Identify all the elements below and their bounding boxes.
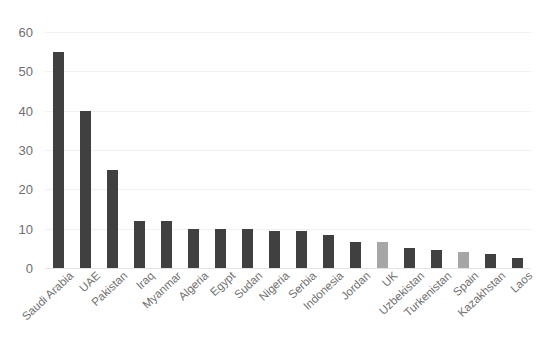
bar[interactable] xyxy=(377,242,388,268)
bar[interactable] xyxy=(188,229,199,268)
bar[interactable] xyxy=(512,258,523,268)
y-axis-tick-label: 50 xyxy=(19,65,33,78)
bar[interactable] xyxy=(431,250,442,268)
y-axis-tick-label: 0 xyxy=(26,262,33,275)
bar[interactable] xyxy=(53,52,64,268)
bar-chart: 0102030405060 Saudi ArabiaUAEPakistanIra… xyxy=(0,0,536,350)
bar[interactable] xyxy=(404,248,415,268)
bar[interactable] xyxy=(215,229,226,268)
gridline-0 xyxy=(45,268,531,269)
bar[interactable] xyxy=(242,229,253,268)
bar[interactable] xyxy=(296,231,307,268)
y-axis-tick-label: 40 xyxy=(19,104,33,117)
y-axis: 0102030405060 xyxy=(0,32,40,268)
y-axis-tick-label: 30 xyxy=(19,144,33,157)
bar[interactable] xyxy=(134,221,145,268)
bar[interactable] xyxy=(269,231,280,268)
y-axis-tick-label: 60 xyxy=(19,26,33,39)
bars-layer xyxy=(45,32,531,268)
y-axis-tick-label: 10 xyxy=(19,222,33,235)
bar[interactable] xyxy=(161,221,172,268)
bar[interactable] xyxy=(107,170,118,268)
bar[interactable] xyxy=(458,252,469,268)
chart-title xyxy=(0,0,536,3)
bar[interactable] xyxy=(323,235,334,268)
x-axis-labels: Saudi ArabiaUAEPakistanIraqMyanmarAlgeri… xyxy=(45,270,531,350)
bar[interactable] xyxy=(485,254,496,268)
y-axis-tick-label: 20 xyxy=(19,183,33,196)
bar[interactable] xyxy=(80,111,91,268)
bar[interactable] xyxy=(350,242,361,268)
